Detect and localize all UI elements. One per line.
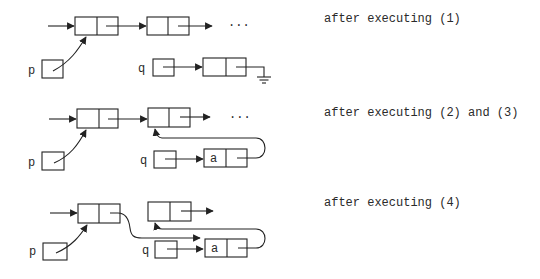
linked-list-diagram: ··· p q ··· p — [0, 0, 540, 279]
state-1: ··· p q — [28, 17, 271, 83]
caption-step-4: after executing (4) — [324, 196, 461, 210]
pointer-label-p: p — [28, 156, 35, 170]
state-2: ··· p q a — [28, 108, 265, 170]
caption-step-1: after executing (1) — [324, 12, 461, 26]
node-value-a: a — [211, 242, 218, 256]
caption-step-2-3: after executing (2) and (3) — [324, 106, 518, 120]
pointer-label-p: p — [28, 64, 35, 78]
pointer-label-p: p — [29, 245, 36, 259]
node-value-a: a — [210, 152, 217, 166]
pointer-label-q: q — [142, 244, 149, 258]
pointer-label-q: q — [140, 154, 147, 168]
pointer-box-p — [42, 152, 64, 170]
pointer-box-p — [42, 60, 63, 78]
state-3: p q a — [29, 202, 265, 260]
ellipsis: ··· — [229, 111, 251, 125]
ellipsis: ··· — [228, 19, 250, 33]
pointer-label-q: q — [138, 62, 145, 76]
pointer-box-p — [43, 243, 67, 260]
